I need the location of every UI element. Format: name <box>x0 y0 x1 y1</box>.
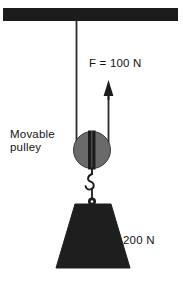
pulley-diagram: F = 100 N Movablepulley 200 N <box>0 0 183 292</box>
pulley-label-line1: Movable <box>10 128 55 140</box>
weight-block <box>56 204 130 268</box>
pulley-label-line2: pulley <box>10 141 41 153</box>
force-label: F = 100 N <box>89 57 142 70</box>
force-arrow-icon <box>104 80 114 100</box>
ceiling-beam <box>3 8 178 21</box>
weight-ring-hole <box>91 200 94 203</box>
pulley-label: Movablepulley <box>10 128 55 154</box>
weight-label: 200 N <box>123 234 155 247</box>
pulley-hook-icon <box>86 168 94 190</box>
